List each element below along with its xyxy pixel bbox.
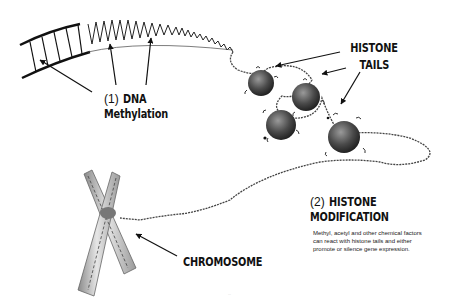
dna-helix [88,20,233,52]
label-histone-modification-number: (2) [310,195,325,209]
nucleosome-2 [292,83,320,111]
nucleosome-1 [248,70,274,96]
label-histone-modification: (2) HISTONE MODIFICATION [310,193,403,223]
label-histone-tails-line2: TAILS [359,59,389,71]
nucleosome-4 [328,121,360,153]
label-histone-modification-title1: HISTONE [329,196,377,208]
nucleosome-3 [266,110,296,140]
label-chromosome: CHROMOSOME [183,253,276,270]
arrow-dna-2 [110,44,116,85]
arrow-tails-3 [341,72,360,104]
label-dna-methylation-title2: Methylation [104,108,168,120]
label-histone-modification-title2: MODIFICATION [310,211,389,223]
label-dna-methylation-number: (1) [104,92,119,106]
arrow-tails-2 [322,68,346,74]
nucleosomes [245,67,366,157]
arrow-chromosome [136,234,177,256]
arrow-dna-1 [40,60,92,92]
chromosome-shape [78,170,136,296]
histone-modification-description: Methyl, acetyl and other chemical factor… [313,229,433,253]
arrow-tails-1 [276,52,340,66]
label-dna-methylation-title1: DNA [123,93,146,105]
label-histone-tails-line1: HISTONE [350,42,398,54]
label-dna-methylation: (1) DNA Methylation [104,90,179,120]
label-histone-tails: HISTONE TAILS [346,39,402,73]
arrow-dna-3 [146,38,151,85]
label-chromosome-text: CHROMOSOME [183,256,262,268]
credit-text: ··· [228,294,231,297]
